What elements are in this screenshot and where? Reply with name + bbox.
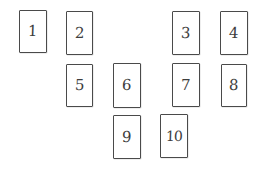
card-4[interactable]: 4 [220, 11, 248, 55]
card-layout-diagram: 12345678910 [0, 0, 262, 171]
card-3[interactable]: 3 [172, 11, 200, 55]
card-1[interactable]: 1 [19, 10, 47, 53]
card-8[interactable]: 8 [221, 64, 247, 107]
card-label: 2 [75, 26, 85, 41]
card-label: 4 [229, 26, 239, 41]
card-5[interactable]: 5 [66, 64, 93, 107]
card-label: 6 [122, 78, 132, 93]
card-label: 8 [229, 78, 239, 93]
card-label: 3 [181, 26, 191, 41]
card-label: 1 [28, 24, 38, 39]
card-9[interactable]: 9 [113, 115, 141, 159]
card-label: 10 [166, 129, 182, 143]
card-label: 9 [122, 130, 132, 145]
card-label: 5 [75, 78, 85, 93]
card-6[interactable]: 6 [113, 63, 141, 108]
card-label: 7 [181, 78, 191, 93]
card-7[interactable]: 7 [172, 63, 200, 107]
card-2[interactable]: 2 [66, 11, 93, 55]
card-10[interactable]: 10 [160, 114, 188, 158]
